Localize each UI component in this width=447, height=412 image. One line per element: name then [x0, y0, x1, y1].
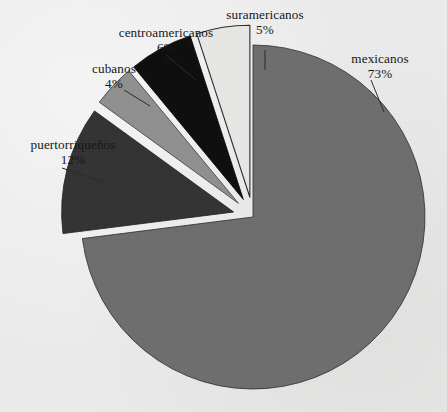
pie-label-centroamericanos-name: centroamericanos [119, 25, 214, 40]
pie-label-mexicanos-name: mexicanos [351, 51, 408, 66]
pie-label-centroamericanos: centroamericanos 6% [103, 26, 229, 56]
pie-label-cubanos-name: cubanos [92, 61, 136, 76]
chart-page: suramericanos 5% centroamericanos 6% cub… [0, 0, 447, 412]
pie-label-mexicanos-value: 73% [330, 67, 430, 82]
pie-label-cubanos-value: 4% [72, 77, 156, 92]
pie-label-puertorriquenos-value: 12% [6, 153, 140, 168]
pie-label-suramericanos-name: suramericanos [226, 7, 303, 22]
pie-label-puertorriquenos: puertorriqueños 12% [6, 138, 140, 168]
pie-label-puertorriquenos-name: puertorriqueños [31, 137, 116, 152]
pie-label-cubanos: cubanos 4% [72, 62, 156, 92]
pie-label-centroamericanos-value: 6% [103, 41, 229, 56]
pie-label-mexicanos: mexicanos 73% [330, 52, 430, 82]
